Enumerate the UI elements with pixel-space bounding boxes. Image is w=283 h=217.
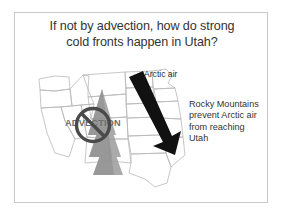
title-line-2: cold fronts happen in Utah? <box>21 35 263 51</box>
explanation-line-4: Utah <box>189 133 268 144</box>
map-diagram: Arctic air ADVECTION <box>25 61 197 199</box>
page-title: If not by advection, how do strong cold … <box>21 19 263 50</box>
explanation-line-3: from reaching <box>189 122 268 133</box>
slide-frame: If not by advection, how do strong cold … <box>14 12 268 203</box>
explanation-line-1: Rocky Mountains <box>189 99 268 110</box>
arctic-air-label: Arctic air <box>144 69 177 79</box>
explanation-line-2: prevent Arctic air <box>189 110 268 121</box>
title-line-1: If not by advection, how do strong <box>21 19 263 35</box>
prohibition-sign-icon <box>73 105 113 145</box>
explanation-text: Rocky Mountains prevent Arctic air from … <box>189 99 268 145</box>
advection-prohibited-group: ADVECTION <box>51 105 135 147</box>
arctic-air-arrow-icon <box>129 71 181 155</box>
